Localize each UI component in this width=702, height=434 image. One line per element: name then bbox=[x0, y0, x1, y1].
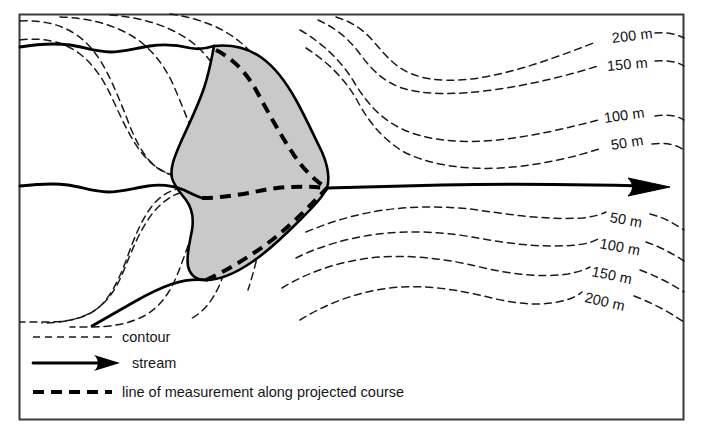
legend-label-stream: stream bbox=[132, 355, 176, 371]
legend-label-measurement: line of measurement along projected cour… bbox=[122, 384, 404, 400]
map-canvas bbox=[0, 0, 702, 434]
legend-label-contour: contour bbox=[122, 329, 170, 345]
figure-root: 200 m 150 m 100 m 50 m 50 m 100 m 150 m … bbox=[0, 0, 702, 434]
